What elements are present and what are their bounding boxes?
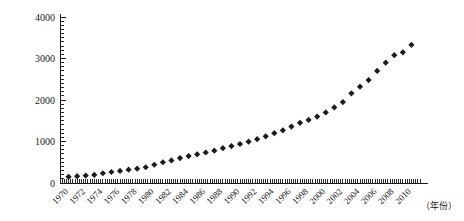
data-point (108, 169, 114, 175)
data-point (177, 155, 183, 161)
data-point (203, 149, 209, 155)
data-point (160, 159, 166, 165)
data-point (220, 145, 226, 151)
data-point (125, 167, 131, 173)
data-point (305, 117, 311, 123)
x-tick-label: 1986 (187, 186, 207, 206)
data-point (151, 162, 157, 168)
data-point (143, 164, 149, 170)
x-tick-label: 2008 (376, 186, 396, 206)
data-point (297, 120, 303, 126)
y-tick-label: 2000 (35, 95, 55, 106)
data-point (254, 136, 260, 142)
data-point (117, 168, 123, 174)
x-tick-label: 1992 (239, 186, 259, 206)
data-point (391, 52, 397, 58)
x-tick-label: 1976 (102, 186, 122, 206)
x-tick-label: 1980 (136, 186, 156, 206)
y-axis (60, 14, 66, 183)
x-tick-label: 1996 (273, 186, 293, 206)
x-tick-label: 2000 (307, 186, 327, 206)
x-tick-labels: 1970197219741976197819801982198419861988… (50, 186, 413, 206)
x-tick-label: 1970 (50, 186, 70, 206)
data-point (331, 104, 337, 110)
data-series-points (65, 42, 414, 180)
y-tick-labels: 01000200030004000 (35, 12, 55, 189)
data-point (194, 151, 200, 157)
x-tick-label: 1994 (256, 186, 276, 206)
data-point (65, 174, 71, 180)
x-tick-label: 1998 (290, 186, 310, 206)
data-point (134, 166, 140, 172)
data-point (408, 42, 414, 48)
x-tick-label: 2004 (342, 186, 362, 206)
x-tick-label: 1988 (204, 186, 224, 206)
data-point (365, 77, 371, 83)
x-tick-label: 2002 (324, 186, 344, 206)
y-tick-label: 4000 (35, 12, 55, 23)
data-point (245, 139, 251, 145)
data-point (323, 109, 329, 115)
data-point (263, 133, 269, 139)
data-point (228, 143, 234, 149)
y-tick-label: 0 (50, 178, 55, 189)
x-tick-label: 1972 (67, 186, 87, 206)
x-tick-label: 1974 (84, 186, 104, 206)
x-tick-label: 1990 (222, 186, 242, 206)
x-tick-label: 2010 (393, 186, 413, 206)
data-point (374, 68, 380, 74)
x-tick-label: 1978 (119, 186, 139, 206)
data-point (211, 148, 217, 154)
data-point (271, 130, 277, 136)
data-point (74, 173, 80, 179)
scatter-chart: 1970197219741976197819801982198419861988… (0, 0, 464, 221)
y-tick-label: 3000 (35, 53, 55, 64)
data-point (280, 127, 286, 133)
data-point (237, 141, 243, 147)
x-axis (60, 179, 428, 183)
data-point (340, 99, 346, 105)
data-point (357, 84, 363, 90)
data-point (83, 172, 89, 178)
x-tick-label: 1982 (153, 186, 173, 206)
data-point (91, 172, 97, 178)
data-point (400, 49, 406, 55)
chart-container: 1970197219741976197819801982198419861988… (0, 0, 464, 221)
data-point (168, 157, 174, 163)
y-tick-label: 1000 (35, 136, 55, 147)
data-point (185, 153, 191, 159)
x-tick-label: 2006 (359, 186, 379, 206)
x-axis-unit-label: （年份） (421, 200, 457, 211)
data-point (348, 90, 354, 96)
data-point (100, 170, 106, 176)
data-point (383, 60, 389, 66)
x-tick-label: 1984 (170, 186, 190, 206)
data-point (314, 114, 320, 120)
data-point (288, 123, 294, 129)
